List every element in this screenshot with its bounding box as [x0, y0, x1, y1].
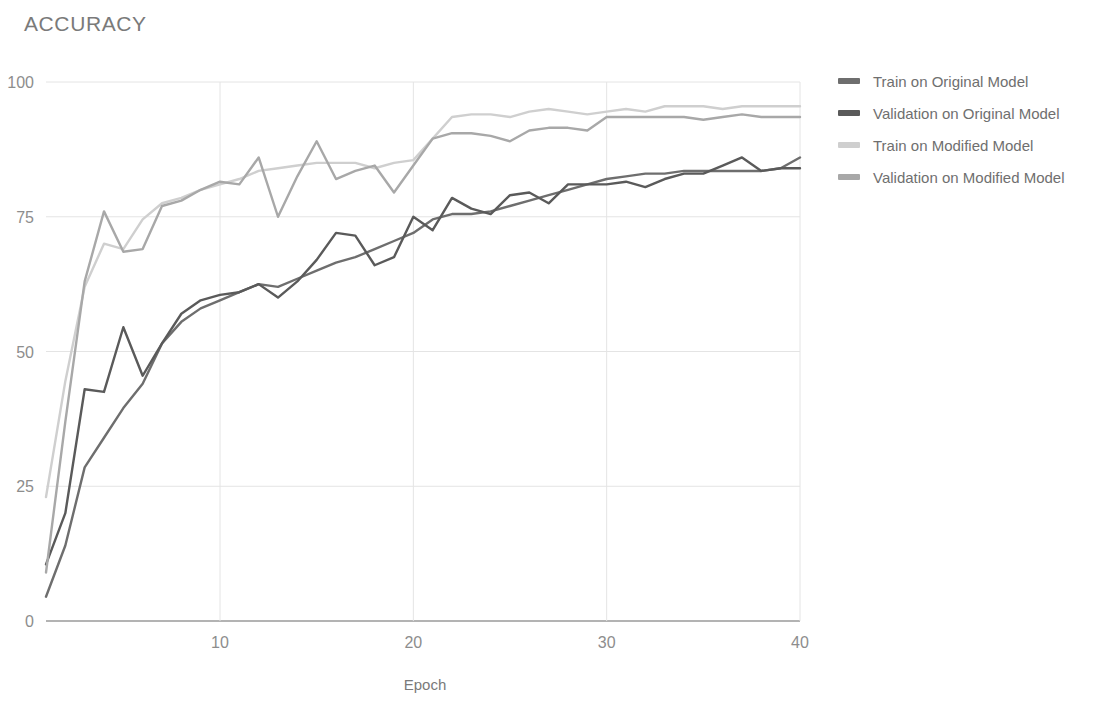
legend-item-label: Train on Modified Model	[873, 138, 1033, 153]
x-axis-tick-labels: 10203040	[211, 634, 809, 651]
legend-swatch-icon	[838, 78, 860, 84]
legend-swatch-icon	[838, 142, 860, 148]
y-tick-label: 0	[25, 613, 34, 630]
y-tick-label: 100	[7, 74, 34, 91]
x-tick-label: 20	[404, 634, 422, 651]
series-line	[46, 106, 800, 497]
y-axis-tick-labels: 0255075100	[7, 74, 34, 630]
series-line	[46, 157, 800, 564]
x-tick-label: 10	[211, 634, 229, 651]
y-tick-label: 75	[16, 209, 34, 226]
accuracy-chart: ACCURACY 0255075100 10203040 Epoch Train…	[0, 0, 1113, 706]
x-tick-label: 30	[598, 634, 616, 651]
series-line	[46, 114, 800, 572]
legend-item-train_modified[interactable]: Train on Modified Model	[838, 130, 1106, 160]
x-tick-label: 40	[791, 634, 809, 651]
legend-item-validation_modified[interactable]: Validation on Modified Model	[838, 162, 1106, 192]
legend-item-label: Validation on Original Model	[873, 106, 1060, 121]
legend-swatch-icon	[838, 110, 860, 116]
x-axis-label: Epoch	[404, 676, 447, 693]
legend-item-validation_original[interactable]: Validation on Original Model	[838, 98, 1106, 128]
legend-item-label: Validation on Modified Model	[873, 170, 1065, 185]
y-tick-label: 25	[16, 478, 34, 495]
chart-legend: Train on Original ModelValidation on Ori…	[838, 66, 1106, 194]
legend-item-label: Train on Original Model	[873, 74, 1028, 89]
legend-item-train_original[interactable]: Train on Original Model	[838, 66, 1106, 96]
y-tick-label: 50	[16, 344, 34, 361]
legend-swatch-icon	[838, 174, 860, 180]
